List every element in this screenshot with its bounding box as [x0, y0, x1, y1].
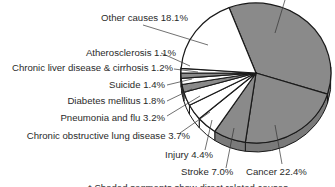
label-diabetes-mellitus: Diabetes mellitus 1.8%	[67, 95, 165, 106]
label-suicide: Suicide 1.4%	[109, 79, 165, 90]
label-injury: Injury 4.4%	[165, 149, 213, 160]
footnote: * Shaded segments show direct related ca…	[88, 182, 288, 187]
label-pneumonia-flu: Pneumonia and flu 3.2%	[60, 112, 165, 123]
label-copd: Chronic obstructive lung disease 3.7%	[27, 130, 191, 141]
label-cancer: Cancer 22.4%	[246, 166, 307, 177]
pie-slices	[181, 3, 331, 143]
pie-chart: Other causes 18.1% Atherosclerosis 1.1% …	[0, 0, 335, 187]
label-stroke: Stroke 7.0%	[181, 166, 234, 177]
label-atherosclerosis: Atherosclerosis 1.1%	[86, 47, 177, 58]
label-other-causes: Other causes 18.1%	[101, 12, 188, 23]
label-chronic-liver-disease: Chronic liver disease & cirrhosis 1.2%	[12, 62, 173, 73]
